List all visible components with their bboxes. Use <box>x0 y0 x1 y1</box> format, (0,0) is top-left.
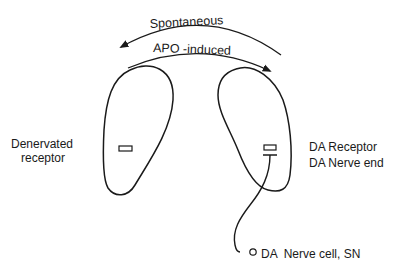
da-nerve-cell-label: DA Nerve cell, SN <box>261 247 360 261</box>
left-striatum-outline <box>103 66 173 195</box>
denervated-receptor-symbol <box>119 146 132 151</box>
da-nerve-end-label: DA Nerve end <box>309 156 384 170</box>
diagram-canvas: Spontaneous APO -induced Denervated rece… <box>0 0 403 267</box>
da-nerve-fiber <box>234 155 270 252</box>
denervated-receptor-label-line2: receptor <box>21 151 65 165</box>
right-striatum-outline <box>218 67 291 191</box>
denervated-receptor-label-line1: Denervated <box>11 137 73 151</box>
spontaneous-label: Spontaneous <box>149 13 223 31</box>
da-receptor-label: DA Receptor <box>309 140 377 154</box>
da-receptor-symbol <box>264 145 276 150</box>
da-nerve-cell-body <box>250 249 256 255</box>
apo-induced-label: APO -induced <box>153 41 231 58</box>
